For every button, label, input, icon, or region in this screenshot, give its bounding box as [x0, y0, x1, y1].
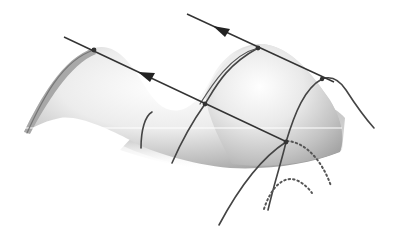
saddle-node — [203, 102, 208, 107]
peak-right-node — [256, 46, 261, 51]
surface — [0, 0, 399, 241]
right-node — [320, 77, 324, 81]
surface-diagram — [0, 0, 399, 241]
diagram-svg — [0, 0, 399, 241]
peak-left-node — [92, 48, 97, 53]
lower-node — [284, 140, 289, 145]
